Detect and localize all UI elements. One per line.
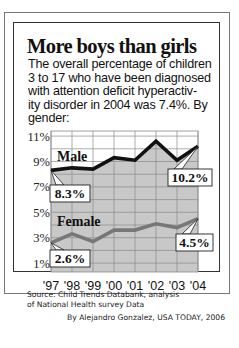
y-axis-labels: 11%9%7%5%3%1% bbox=[28, 130, 50, 271]
y-tick-label: 11% bbox=[28, 130, 50, 144]
y-tick-label: 9% bbox=[33, 155, 50, 169]
female-label: Female bbox=[57, 214, 101, 229]
callout-male-04-text: 10.2% bbox=[171, 170, 208, 185]
source-note: Source: Child Trends Databank, analysis … bbox=[27, 290, 179, 309]
x-tick-label: '04 bbox=[190, 279, 206, 293]
callout-female-04-text: 4.5% bbox=[179, 235, 209, 250]
source-line: Source: Child Trends Databank, analysis bbox=[27, 290, 179, 300]
y-tick-label: 3% bbox=[33, 231, 50, 245]
byline: By Alejandro Gonzalez, USA TODAY, 2006 bbox=[67, 313, 225, 322]
callout-female-97-text: 2.6% bbox=[55, 251, 85, 266]
male-label: Male bbox=[57, 149, 87, 164]
source-line: of National Health survey Data bbox=[27, 300, 179, 310]
y-tick-label: 1% bbox=[33, 257, 50, 271]
y-tick-label: 5% bbox=[33, 206, 50, 220]
callout-male-97-text: 8.3% bbox=[55, 186, 85, 201]
y-tick-label: 7% bbox=[33, 180, 50, 194]
